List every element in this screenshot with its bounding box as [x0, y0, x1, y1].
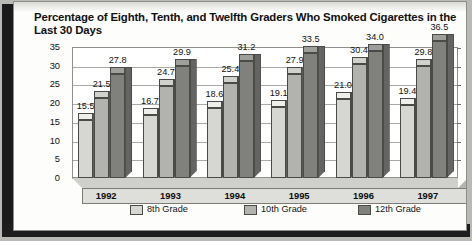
- bar-side-face: [254, 54, 261, 178]
- y-axis-tick-label: 20: [40, 98, 60, 108]
- bar-side-face: [447, 34, 454, 178]
- x-axis-label-1995: 1995: [269, 190, 329, 201]
- x-axis-label-1997: 1997: [398, 190, 458, 201]
- bar-top-face: [368, 44, 383, 51]
- bar-front-face: [207, 108, 222, 178]
- bar-front-face: [94, 98, 109, 178]
- y-axis-tick-mark: [457, 160, 461, 161]
- bar-value-label: 31.2: [232, 42, 261, 52]
- bar-front-face: [368, 51, 383, 178]
- bar-side-face: [318, 46, 325, 178]
- y-axis: 05101520253035: [38, 38, 60, 178]
- legend-label: 10th Grade: [261, 204, 307, 214]
- bar-side-face: [125, 67, 132, 178]
- legend-swatch: [358, 205, 371, 215]
- bar-front-face: [239, 61, 254, 178]
- bar-top-face: [239, 54, 254, 61]
- bar-top-face: [287, 67, 302, 74]
- bar-top-face: [400, 98, 415, 105]
- y-axis-tick-label: 25: [40, 79, 60, 89]
- bar-front-face: [432, 41, 447, 178]
- bar-value-label: 33.5: [296, 34, 325, 44]
- x-axis-label-1992: 1992: [76, 190, 136, 201]
- bar-top-face: [271, 100, 286, 107]
- chart-legend: 8th Grade10th Grade12th Grade: [72, 204, 458, 218]
- chart-title: Percentage of Eighth, Tenth, and Twelfth…: [34, 11, 458, 37]
- bar-front-face: [271, 107, 286, 178]
- bar-top-face: [175, 59, 190, 66]
- y-axis-tick-label: 15: [40, 117, 60, 127]
- bar-12th-grade-1997: [432, 34, 454, 178]
- bar-front-face: [110, 74, 125, 178]
- bar-value-label: 34.0: [361, 32, 390, 42]
- bar-front-face: [287, 74, 302, 178]
- bar-top-face: [352, 57, 367, 64]
- bar-top-face: [207, 101, 222, 108]
- legend-swatch: [244, 205, 257, 215]
- bar-value-label: 36.5: [425, 22, 454, 32]
- bar-chart: 05101520253035 15.521.527.816.724.729.91…: [28, 38, 466, 218]
- y-axis-tick-mark: [457, 85, 461, 86]
- bar-12th-grade-1994: [239, 54, 261, 178]
- bar-front-face: [175, 66, 190, 178]
- legend-swatch: [130, 205, 143, 215]
- bar-12th-grade-1993: [175, 59, 197, 178]
- bar-12th-grade-1996: [368, 44, 390, 178]
- bar-top-face: [432, 34, 447, 41]
- bar-top-face: [143, 108, 158, 115]
- y-axis-tick-mark: [457, 142, 461, 143]
- bar-front-face: [303, 53, 318, 178]
- bar-front-face: [352, 64, 367, 178]
- bar-front-face: [159, 86, 174, 178]
- bar-front-face: [336, 99, 351, 178]
- bar-top-face: [336, 92, 351, 99]
- bar-top-face: [94, 91, 109, 98]
- y-axis-tick-label: 35: [40, 42, 60, 52]
- bar-front-face: [223, 83, 238, 178]
- y-axis-tick-label: 0: [40, 173, 60, 183]
- bar-front-face: [416, 66, 431, 178]
- scanned-page-background: Percentage of Eighth, Tenth, and Twelfth…: [0, 0, 472, 241]
- bar-value-label: 29.9: [168, 47, 197, 57]
- bar-front-face: [78, 120, 93, 178]
- bar-side-face: [383, 44, 390, 178]
- legend-label: 8th Grade: [147, 204, 188, 214]
- x-axis-label-1993: 1993: [141, 190, 201, 201]
- bar-top-face: [223, 76, 238, 83]
- y-axis-tick-label: 30: [40, 61, 60, 71]
- y-axis-tick-mark: [457, 104, 461, 105]
- bar-top-face: [110, 67, 125, 74]
- y-axis-tick-mark: [457, 123, 461, 124]
- x-axis-label-1994: 1994: [205, 190, 265, 201]
- bar-12th-grade-1992: [110, 67, 132, 178]
- bar-value-label: 27.8: [103, 55, 132, 65]
- bar-front-face: [400, 105, 415, 178]
- bar-12th-grade-1995: [303, 46, 325, 178]
- x-axis-label-1996: 1996: [334, 190, 394, 201]
- bar-top-face: [416, 59, 431, 66]
- y-axis-tick-label: 10: [40, 136, 60, 146]
- bar-side-face: [190, 59, 197, 178]
- bar-top-face: [78, 113, 93, 120]
- chart-page: Percentage of Eighth, Tenth, and Twelfth…: [14, 2, 466, 230]
- y-axis-tick-label: 5: [40, 154, 60, 164]
- y-axis-tick-mark: [457, 67, 461, 68]
- base-slab-top: [72, 178, 458, 188]
- bar-top-face: [159, 79, 174, 86]
- bar-top-face: [303, 46, 318, 53]
- legend-label: 12th Grade: [375, 204, 421, 214]
- bar-front-face: [143, 115, 158, 178]
- y-axis-tick-mark: [457, 48, 461, 49]
